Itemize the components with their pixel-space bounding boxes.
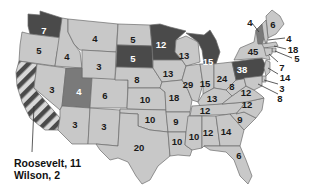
label-VT: 4 xyxy=(247,17,253,28)
label-OR: 5 xyxy=(36,45,42,56)
label-IN: 15 xyxy=(200,78,211,89)
label-IL: 29 xyxy=(183,79,194,90)
label-WA: 7 xyxy=(41,25,46,36)
label-FL: 6 xyxy=(236,150,241,161)
leader-line-MD xyxy=(258,84,278,94)
state-NJ[interactable] xyxy=(264,60,270,76)
label-GA: 14 xyxy=(221,126,232,137)
label-SC: 9 xyxy=(237,114,242,125)
label-NH: 4 xyxy=(286,33,292,44)
label-ND: 5 xyxy=(130,34,136,45)
state-DE[interactable] xyxy=(262,76,266,82)
label-PA: 38 xyxy=(237,64,248,75)
label-AR: 9 xyxy=(173,116,178,127)
leader-line-NH xyxy=(268,38,285,40)
label-NM: 3 xyxy=(101,121,106,132)
label-NE: 8 xyxy=(134,74,139,85)
label-ME: 6 xyxy=(270,19,275,30)
label-NY: 45 xyxy=(248,46,259,57)
label-MI: 15 xyxy=(203,56,214,67)
label-MS: 10 xyxy=(189,131,200,142)
state-CO[interactable] xyxy=(90,78,128,108)
annotation-wilson: Wilson, 2 xyxy=(14,169,81,181)
label-IA: 13 xyxy=(163,68,174,79)
label-NC: 12 xyxy=(242,99,253,110)
label-CO: 6 xyxy=(102,90,107,101)
leader-line-CT xyxy=(269,54,278,62)
state-FL[interactable] xyxy=(204,146,252,184)
label-OH: 24 xyxy=(217,73,228,84)
label-KS: 10 xyxy=(140,94,151,105)
label-AL: 12 xyxy=(203,127,214,138)
label-VA: 12 xyxy=(241,87,252,98)
label-MT: 4 xyxy=(92,33,98,44)
label-OK: 10 xyxy=(145,114,156,125)
california-split-annotation: Roosevelt, 11 Wilson, 2 xyxy=(14,157,81,181)
label-WI: 13 xyxy=(179,50,190,61)
label-SD: 5 xyxy=(130,53,136,64)
label-AZ: 3 xyxy=(72,119,77,130)
label-MD: 8 xyxy=(277,93,282,104)
leader-line-VT xyxy=(252,23,259,32)
label-TX: 20 xyxy=(134,142,145,153)
annotation-roosevelt: Roosevelt, 11 xyxy=(14,157,81,169)
label-NJ: 14 xyxy=(280,72,291,83)
label-NV: 3 xyxy=(49,84,54,95)
label-LA: 10 xyxy=(172,136,183,147)
label-MO: 18 xyxy=(169,92,180,103)
label-KY: 13 xyxy=(207,93,218,104)
label-UT: 4 xyxy=(76,86,82,97)
label-WY: 3 xyxy=(96,61,101,72)
label-TN: 12 xyxy=(200,105,211,116)
label-WV: 8 xyxy=(229,81,234,92)
label-MN: 12 xyxy=(156,39,167,50)
label-RI: 5 xyxy=(294,53,300,64)
label-ID: 4 xyxy=(64,51,70,62)
